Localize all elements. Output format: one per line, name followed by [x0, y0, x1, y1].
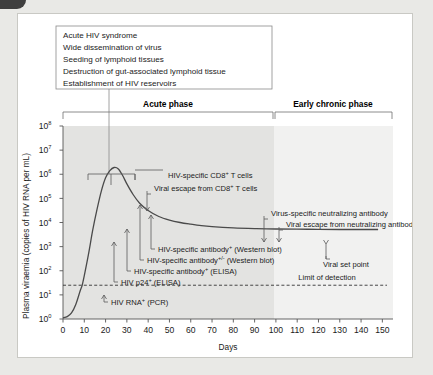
x-tick-label: 30: [122, 325, 132, 335]
phase-brackets: Acute phase Early chronic phase: [63, 99, 392, 119]
x-tick-label: 150: [375, 325, 390, 335]
x-tick-label: 110: [290, 325, 304, 335]
callout-line-2: Seeding of lymphoid tissues: [63, 55, 164, 64]
x-tick-label: 140: [354, 325, 369, 335]
phase-label-chronic: Early chronic phase: [293, 99, 373, 109]
callout-line-1: Wide dissemination of virus: [63, 43, 162, 52]
x-tick-label: 90: [250, 325, 260, 335]
x-tick-label: 130: [333, 325, 348, 335]
annotation-label: Virus-specific neutralizing antibody: [271, 209, 388, 218]
x-tick-label: 120: [311, 325, 326, 335]
y-tick-label: 102: [39, 265, 52, 276]
annotation-label: HIV-specific antibody+/- (Western blot): [147, 255, 275, 265]
limit-of-detection-label: Limit of detection: [298, 273, 355, 282]
x-tick-label: 70: [207, 325, 217, 335]
y-tick-label: 104: [39, 217, 52, 228]
x-tick-label: 40: [143, 325, 153, 335]
annotation-label: Viral escape from CD8+ T cells: [154, 183, 258, 193]
annotation-label: HIV RNA+ (PCR): [111, 297, 169, 307]
annotation-label: HIV p24+ (ELISA): [121, 277, 181, 287]
phase-label-acute: Acute phase: [143, 99, 193, 109]
annotation-label: HIV-specific antibody+ (Western blot): [158, 244, 282, 254]
chart-svg: Acute HIV syndrome Wide dissemination of…: [18, 14, 412, 357]
y-tick-label: 106: [39, 168, 52, 179]
callout-line-3: Destruction of gut-associated lymphoid t…: [63, 67, 226, 76]
y-tick-label: 108: [39, 120, 52, 131]
x-tick-label: 80: [229, 325, 239, 335]
hiv-viraemia-figure: Acute HIV syndrome Wide dissemination of…: [17, 13, 413, 358]
x-tick-label: 10: [80, 325, 90, 335]
x-tick-label: 20: [101, 325, 111, 335]
annotation-label: HIV-specific antibody+ (ELISA): [134, 266, 237, 276]
y-tick-label: 101: [39, 289, 52, 300]
x-tick-label: 60: [186, 325, 196, 335]
callout-line-4: Establishment of HIV reservoirs: [63, 79, 176, 88]
y-tick-label: 107: [39, 144, 52, 155]
x-tick-label: 0: [61, 325, 66, 335]
y-tick-label: 105: [39, 193, 52, 204]
y-tick-label: 103: [39, 241, 52, 252]
annotation-label: HIV-specific CD8+ T cells: [168, 170, 253, 180]
page-corner-mark: [0, 0, 26, 9]
annotation-label: Viral set point: [323, 260, 370, 269]
annotation-label: Viral escape from neutralizing antibody: [286, 220, 412, 229]
callout-line-0: Acute HIV syndrome: [63, 31, 138, 40]
y-tick-label: 100: [39, 313, 52, 324]
y-axis-title: Plasma viraemia (copies of HIV RNA per m…: [21, 153, 31, 319]
x-tick-label: 100: [269, 325, 284, 335]
x-axis-title: Days: [219, 342, 238, 352]
x-tick-label: 50: [165, 325, 175, 335]
